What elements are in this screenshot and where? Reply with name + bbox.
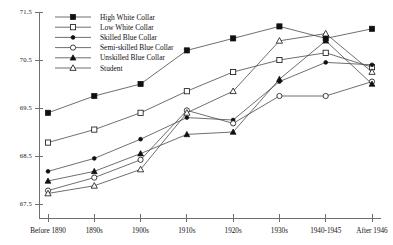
legend-label: Low White Collar [100, 23, 154, 32]
legend-label: Semi-skilled Blue Collar [100, 43, 174, 52]
y-tick-label: 70.5 [20, 56, 33, 63]
legend-marker-open-square [70, 25, 75, 30]
data-point [138, 151, 144, 156]
data-point [277, 24, 282, 29]
data-point [324, 61, 328, 65]
data-point [323, 93, 328, 98]
legend-label: Skilled Blue Collar [100, 33, 158, 42]
series-unskilled-blue-collar [45, 38, 375, 183]
x-tick-label: 1900s [132, 227, 149, 235]
legend-item: Skilled Blue Collar [55, 33, 158, 42]
legend-item: Student [55, 64, 124, 73]
data-point [184, 89, 189, 94]
line-chart: 67.568.569.570.571.5 Before 18901890s190… [0, 0, 393, 245]
x-tick-label: 1910s [178, 227, 195, 235]
legend-marker-filled-square [70, 14, 75, 19]
series-path [48, 41, 372, 181]
data-point [370, 63, 374, 67]
legend-marker-open-circle [70, 45, 75, 50]
data-point [92, 93, 97, 98]
data-point [46, 169, 50, 173]
legend-item: Semi-skilled Blue Collar [55, 43, 174, 52]
x-tick-label: 1930s [271, 227, 288, 235]
data-point [139, 137, 143, 141]
legend-label: Student [100, 64, 124, 73]
data-point [45, 140, 50, 145]
chart-legend: High White CollarLow White CollarSkilled… [55, 13, 174, 73]
x-tick-label: 1920s [225, 227, 242, 235]
data-point [277, 93, 282, 98]
x-tick-label: 1890s [86, 227, 103, 235]
chart-canvas: 67.568.569.570.571.5 Before 18901890s190… [0, 0, 393, 245]
data-point [369, 26, 374, 31]
data-point [92, 157, 96, 161]
legend-label: Unskilled Blue Collar [100, 53, 165, 62]
data-point [231, 69, 236, 74]
legend-label: High White Collar [100, 13, 155, 22]
data-point [231, 121, 236, 126]
x-tick-label: 1940-1945 [310, 227, 342, 235]
x-tick-label: After 1946 [356, 227, 388, 235]
data-point [138, 157, 143, 162]
y-axis-tick-labels: 67.568.569.570.571.5 [20, 8, 33, 207]
legend-marker-small-filled-dot [71, 36, 75, 40]
data-point [277, 76, 283, 81]
x-tick-label: Before 1890 [30, 227, 66, 235]
data-point [323, 30, 329, 36]
legend-item: High White Collar [55, 13, 155, 22]
y-tick-label: 68.5 [20, 152, 33, 159]
legend-item: Unskilled Blue Collar [55, 53, 165, 62]
legend-item: Low White Collar [55, 23, 154, 32]
series-path [48, 34, 372, 194]
y-tick-label: 69.5 [20, 104, 33, 111]
data-point [138, 110, 143, 115]
data-point [277, 57, 282, 62]
data-point [323, 50, 328, 55]
data-point [184, 48, 189, 53]
axis-frame [39, 12, 381, 218]
x-axis-tick-labels: Before 18901890s1900s1910s1920s1930s1940… [30, 227, 388, 235]
data-point [185, 116, 189, 120]
data-series-group [45, 24, 375, 196]
data-point [45, 110, 50, 115]
y-tick-label: 67.5 [20, 200, 33, 207]
data-point [92, 127, 97, 132]
y-tick-label: 71.5 [20, 8, 33, 15]
data-point [138, 81, 143, 86]
data-point [231, 36, 236, 41]
data-point [92, 175, 97, 180]
